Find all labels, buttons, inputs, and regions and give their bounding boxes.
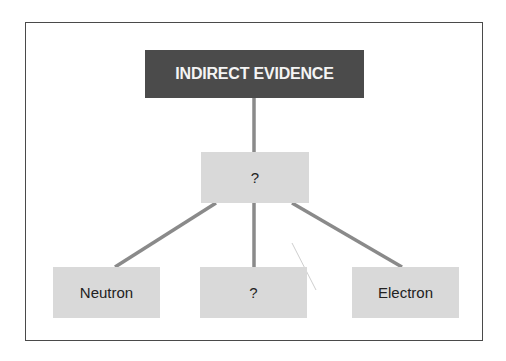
leaf-node-unknown: ? <box>200 267 307 318</box>
root-node-indirect-evidence: INDIRECT EVIDENCE <box>145 50 364 98</box>
middle-node-label: ? <box>251 169 259 186</box>
leaf-node-label: Neutron <box>80 284 133 301</box>
leaf-node-electron: Electron <box>352 267 459 318</box>
connector-middle-to-left <box>115 203 216 267</box>
connector-middle-to-right <box>292 203 402 267</box>
leaf-node-neutron: Neutron <box>53 267 160 318</box>
leaf-node-label: ? <box>249 284 257 301</box>
middle-node-unknown: ? <box>201 152 309 203</box>
root-node-label: INDIRECT EVIDENCE <box>175 65 333 83</box>
leaf-node-label: Electron <box>378 284 433 301</box>
